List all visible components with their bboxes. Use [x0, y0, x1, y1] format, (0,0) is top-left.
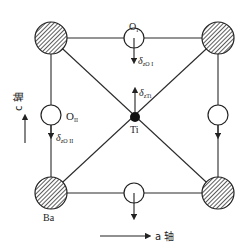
ba-atom-top-left: [35, 22, 67, 54]
o2-atom-right: [208, 105, 228, 125]
ba-atom-bottom-left: [35, 177, 67, 209]
ba-atom-top-right: [202, 22, 234, 54]
delta-ti-label: δzTi: [139, 87, 152, 99]
ba-atom-bottom-right: [202, 177, 234, 209]
delta-o1-label: δzO I: [138, 55, 153, 67]
ba-label: Ba: [43, 212, 55, 223]
o1-label: OI: [129, 21, 138, 33]
delta-o2-label: δzO II: [56, 132, 73, 144]
ti-atom: [130, 112, 140, 122]
o2-label: OII: [66, 110, 78, 123]
ti-label: Ti: [130, 124, 139, 135]
c-axis-label: c 轴: [12, 92, 24, 111]
batio3-cell-diagram: OI δzO I δzTi Ti OII δzO II Ba c 轴 a 轴: [0, 0, 251, 251]
o2-atom-left: [41, 105, 61, 125]
a-axis-label: a 轴: [155, 230, 174, 242]
